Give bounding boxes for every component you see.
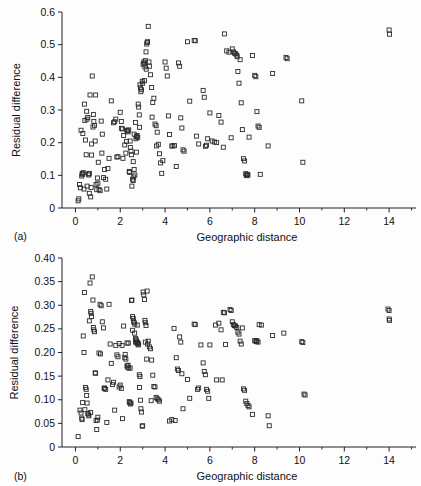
data-point-marker [182, 149, 186, 153]
data-point-marker [99, 119, 103, 123]
data-point-marker [150, 85, 154, 89]
y-tick-label: 0.30 [35, 299, 56, 311]
data-point-marker [113, 408, 117, 412]
data-point-marker [266, 414, 270, 418]
data-point-marker [229, 136, 233, 140]
data-point-marker [100, 320, 104, 324]
data-point-marker [150, 358, 154, 362]
data-point-marker [188, 396, 192, 400]
data-point-marker [236, 69, 240, 73]
data-point-marker [96, 160, 100, 164]
data-point-marker [388, 32, 392, 36]
data-point-marker [81, 401, 85, 405]
data-point-marker [180, 126, 184, 130]
data-point-marker [208, 343, 212, 347]
scatter-plot-b: 00.050.100.150.200.250.300.350.400246810… [0, 240, 421, 486]
data-point-marker [82, 351, 86, 355]
data-point-marker [91, 113, 95, 117]
data-point-marker [106, 378, 110, 382]
data-point-marker [91, 298, 95, 302]
data-point-marker [85, 109, 89, 113]
y-tick-label: 0.25 [35, 322, 56, 334]
data-point-marker [208, 111, 212, 115]
data-point-marker [122, 324, 126, 328]
data-point-marker [90, 74, 94, 78]
data-point-marker [224, 342, 228, 346]
data-point-marker [151, 100, 155, 104]
data-point-marker [271, 333, 275, 337]
data-point-marker [163, 60, 167, 64]
data-point-marker [201, 361, 205, 365]
data-point-marker [89, 185, 93, 189]
data-point-marker [206, 137, 210, 141]
data-point-marker [124, 357, 128, 361]
data-point-marker [188, 99, 192, 103]
data-point-marker [152, 96, 156, 100]
data-point-marker [138, 398, 142, 402]
data-point-marker [241, 387, 245, 391]
panel-b: 00.050.100.150.200.250.300.350.400246810… [0, 240, 421, 486]
data-point-marker [84, 138, 88, 142]
data-point-marker [284, 55, 288, 59]
data-point-marker [107, 156, 111, 160]
data-point-marker [219, 120, 223, 124]
data-point-marker [243, 388, 247, 392]
data-point-marker [387, 28, 391, 32]
y-tick-label: 0.35 [35, 275, 56, 287]
x-tick-label: 14 [383, 215, 395, 227]
data-point-marker [85, 401, 89, 405]
data-point-marker [107, 302, 111, 306]
data-point-marker [105, 420, 109, 424]
data-point-marker [138, 385, 142, 389]
y-tick-label: 0 [49, 441, 55, 453]
data-point-marker [202, 95, 206, 99]
scatter-plot-a: 00.10.20.30.40.50.602468101214Geographic… [0, 0, 421, 248]
data-point-marker [155, 130, 159, 134]
data-point-marker [121, 156, 125, 160]
data-point-marker [258, 172, 262, 176]
data-point-marker [142, 298, 146, 302]
data-point-marker [120, 417, 124, 421]
data-point-marker [134, 150, 138, 154]
y-tick-label: 0.6 [40, 6, 55, 18]
x-tick-label: 12 [338, 215, 350, 227]
data-point-marker [109, 361, 113, 365]
data-point-marker [185, 40, 189, 44]
x-tick-label: 4 [162, 215, 168, 227]
data-point-marker [172, 326, 176, 330]
data-point-marker [125, 341, 129, 345]
data-point-marker [119, 119, 123, 123]
data-point-marker [88, 93, 92, 97]
data-point-marker [95, 176, 99, 180]
data-point-marker [181, 148, 185, 152]
y-tick-label: 0.20 [35, 346, 56, 358]
x-tick-label: 6 [207, 454, 213, 466]
data-point-marker [239, 342, 243, 346]
data-point-marker [174, 356, 178, 360]
y-tick-label: 0.2 [40, 136, 55, 148]
data-point-marker [98, 302, 102, 306]
y-tick-label: 0.10 [35, 393, 56, 405]
y-tick-label: 0.15 [35, 370, 56, 382]
data-point-marker [76, 435, 80, 439]
data-point-marker [240, 128, 244, 132]
data-point-marker [221, 145, 225, 149]
data-point-marker [238, 58, 242, 62]
x-tick-label: 8 [252, 215, 258, 227]
data-point-marker [220, 378, 224, 382]
data-point-marker [174, 165, 178, 169]
data-point-marker [126, 341, 130, 345]
data-point-marker [118, 110, 122, 114]
data-point-marker [94, 93, 98, 97]
data-point-marker [250, 412, 254, 416]
data-point-marker [132, 167, 136, 171]
data-point-marker [95, 428, 99, 432]
x-tick-label: 6 [207, 215, 213, 227]
data-point-marker [271, 71, 275, 75]
data-point-marker [137, 113, 141, 117]
data-point-marker [178, 335, 182, 339]
data-point-marker [179, 116, 183, 120]
data-point-marker [168, 133, 172, 137]
data-point-marker [239, 101, 243, 105]
data-point-marker [240, 326, 244, 330]
